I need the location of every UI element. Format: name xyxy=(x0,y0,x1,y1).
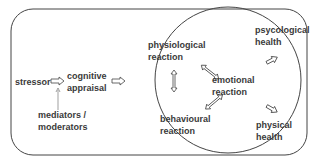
node-physiological-line1: physiological xyxy=(148,40,206,50)
node-mediators-line1: mediators / xyxy=(38,110,87,120)
arrow-stressor-appraisal xyxy=(51,77,64,85)
node-cognitive-line2: appraisal xyxy=(67,83,107,93)
arrow-to-physical-health xyxy=(265,103,279,115)
node-physiological-line2: reaction xyxy=(148,52,183,62)
node-cognitive-line1: cognitive xyxy=(67,71,107,81)
node-psych-health-line1: psycological xyxy=(255,25,310,35)
node-psych-health-line2: health xyxy=(255,37,282,47)
node-physical-health-line1: physical xyxy=(256,120,292,130)
node-physical-health-line2: health xyxy=(256,132,283,142)
node-behavioural-line2: reaction xyxy=(160,126,195,136)
arrow-to-psychological-health xyxy=(265,54,279,66)
node-emotional-line1: emotional xyxy=(212,75,255,85)
arrow-appraisal-reaction xyxy=(112,77,125,85)
node-stressor: stressor xyxy=(15,77,51,87)
arrow-physiological-behavioural xyxy=(171,70,177,92)
stress-model-diagram: stressor cognitive appraisal mediators /… xyxy=(0,0,323,164)
node-behavioural-line1: behavioural xyxy=(160,114,211,124)
node-mediators-line2: moderators xyxy=(38,122,88,132)
